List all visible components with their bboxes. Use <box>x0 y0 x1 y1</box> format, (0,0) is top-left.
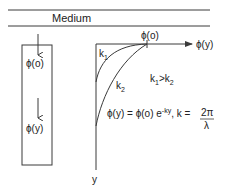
decay-equation: ϕ(y) = ϕ(o) e-ky, k = <box>107 107 191 119</box>
medium-diagram: Medium ϕ(o) ϕ(y) ϕ(y) y ϕ(o) k1 k2 k1>k2… <box>0 0 225 189</box>
curve-k1-label: k1 <box>99 48 108 61</box>
left-top-phi-label: ϕ(o) <box>26 58 44 69</box>
equation-numerator: 2π <box>201 107 214 118</box>
equation-denominator: λ <box>204 120 209 131</box>
phi-o-tick-label: ϕ(o) <box>141 30 159 41</box>
curve-k2-label: k2 <box>116 80 125 93</box>
medium-label: Medium <box>52 12 91 24</box>
x-axis-label: ϕ(y) <box>196 39 213 50</box>
relation-label: k1>k2 <box>150 73 174 86</box>
y-axis-label: y <box>92 174 97 185</box>
left-bottom-phi-label: ϕ(y) <box>26 123 43 134</box>
